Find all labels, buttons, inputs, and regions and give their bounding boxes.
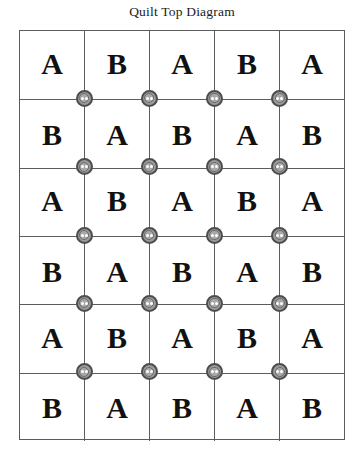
quilt-button-hole <box>85 370 88 373</box>
quilt-cell: B <box>214 305 279 372</box>
quilt-button-icon <box>206 158 223 175</box>
quilt-button-icon <box>206 227 223 244</box>
quilt-cell-label: B <box>302 393 322 423</box>
quilt-cell: A <box>279 169 344 236</box>
quilt-button-hole <box>215 302 218 305</box>
quilt-cell-label: B <box>237 323 257 353</box>
quilt-cell: A <box>20 169 84 236</box>
quilt-cell-label: A <box>236 393 258 423</box>
quilt-button-hole <box>81 165 84 168</box>
quilt-button-icon <box>141 227 158 244</box>
quilt-cell-label: A <box>171 323 193 353</box>
quilt-cell: A <box>84 100 149 167</box>
quilt-cell-label: B <box>237 49 257 79</box>
quilt-button-hole <box>211 234 214 237</box>
quilt-cell: A <box>149 169 214 236</box>
quilt-button-icon <box>141 295 158 312</box>
quilt-grid: A B A B A B A B A B A B A B A B A B A B <box>19 30 345 440</box>
quilt-button-icon <box>271 158 288 175</box>
quilt-top-diagram-figure: Quilt Top Diagram A B A B A B A B A B A … <box>0 0 364 459</box>
quilt-cell-label: B <box>42 257 62 287</box>
quilt-button-hole <box>150 234 153 237</box>
quilt-button-hole <box>146 97 149 100</box>
quilt-cell: B <box>20 100 84 167</box>
quilt-button-icon <box>76 295 93 312</box>
quilt-cell-label: A <box>106 257 128 287</box>
quilt-button-icon <box>271 227 288 244</box>
quilt-button-icon <box>141 90 158 107</box>
quilt-button-hole <box>81 97 84 100</box>
quilt-cell-label: B <box>302 257 322 287</box>
quilt-cell: A <box>214 237 279 304</box>
quilt-cell-label: B <box>107 186 127 216</box>
quilt-button-hole <box>215 234 218 237</box>
quilt-button-hole <box>85 234 88 237</box>
quilt-button-icon <box>206 363 223 380</box>
quilt-button-hole <box>146 234 149 237</box>
quilt-button-icon <box>76 158 93 175</box>
quilt-cell: A <box>20 305 84 372</box>
quilt-cell: B <box>279 100 344 167</box>
quilt-cell: B <box>149 100 214 167</box>
table-row: A B A B A <box>20 31 344 99</box>
quilt-cell-label: B <box>172 393 192 423</box>
quilt-cell: A <box>214 100 279 167</box>
quilt-button-icon <box>141 158 158 175</box>
quilt-cell-label: A <box>41 49 63 79</box>
quilt-cell: B <box>214 31 279 99</box>
quilt-button-hole <box>146 302 149 305</box>
quilt-cell-label: B <box>107 49 127 79</box>
quilt-button-icon <box>206 295 223 312</box>
quilt-button-hole <box>85 97 88 100</box>
quilt-cell: B <box>279 237 344 304</box>
table-row: A B A B A <box>20 168 344 236</box>
quilt-cell: A <box>149 305 214 372</box>
table-row: A B A B A <box>20 304 344 372</box>
quilt-button-hole <box>211 302 214 305</box>
table-row: B A B A B <box>20 373 344 441</box>
quilt-cell-label: B <box>42 393 62 423</box>
quilt-cell-label: B <box>302 120 322 150</box>
quilt-button-hole <box>150 97 153 100</box>
table-row: B A B A B <box>20 236 344 304</box>
quilt-button-icon <box>271 363 288 380</box>
quilt-button-hole <box>85 302 88 305</box>
quilt-cell-label: A <box>301 49 323 79</box>
quilt-cell-label: A <box>41 323 63 353</box>
quilt-button-icon <box>271 295 288 312</box>
quilt-cell: A <box>214 374 279 441</box>
quilt-button-hole <box>276 234 279 237</box>
quilt-button-icon <box>141 363 158 380</box>
quilt-button-icon <box>76 90 93 107</box>
quilt-cell: B <box>149 237 214 304</box>
quilt-cell: A <box>149 31 214 99</box>
quilt-cell-label: B <box>237 186 257 216</box>
quilt-cell: B <box>20 374 84 441</box>
quilt-button-hole <box>280 234 283 237</box>
quilt-cell-label: A <box>171 49 193 79</box>
quilt-cell: B <box>20 237 84 304</box>
quilt-button-icon <box>206 90 223 107</box>
quilt-cell-label: A <box>41 186 63 216</box>
quilt-cell: A <box>20 31 84 99</box>
quilt-cell-label: B <box>42 120 62 150</box>
quilt-cell: A <box>279 31 344 99</box>
quilt-cell: A <box>279 305 344 372</box>
quilt-cell-label: B <box>172 257 192 287</box>
quilt-cell-label: A <box>171 186 193 216</box>
quilt-cell: B <box>84 31 149 99</box>
quilt-button-hole <box>150 302 153 305</box>
quilt-button-icon <box>76 363 93 380</box>
quilt-button-hole <box>211 97 214 100</box>
page-title: Quilt Top Diagram <box>0 4 364 20</box>
quilt-cell-label: B <box>172 120 192 150</box>
quilt-cell: B <box>214 169 279 236</box>
quilt-button-icon <box>271 90 288 107</box>
quilt-button-hole <box>85 165 88 168</box>
quilt-cell-label: B <box>107 323 127 353</box>
quilt-button-hole <box>215 97 218 100</box>
quilt-cell-label: A <box>236 120 258 150</box>
quilt-cell-label: A <box>301 186 323 216</box>
quilt-button-hole <box>81 302 84 305</box>
quilt-cell: B <box>279 374 344 441</box>
